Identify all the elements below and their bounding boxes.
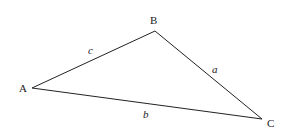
triangle-svg: A B C a b c — [0, 0, 296, 138]
side-label-b: b — [143, 108, 149, 120]
vertex-label-c: C — [267, 117, 274, 129]
triangle-shape — [32, 31, 262, 119]
vertex-label-a: A — [19, 82, 27, 94]
triangle-diagram: A B C a b c — [0, 0, 296, 138]
side-label-c: c — [88, 44, 93, 56]
side-label-a: a — [212, 63, 218, 75]
vertex-label-b: B — [150, 14, 157, 26]
